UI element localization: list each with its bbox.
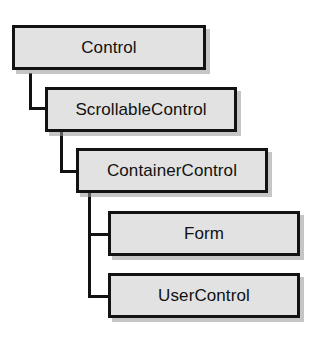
class-node-scrollablecontrol[interactable]: ScrollableControl [45,87,237,132]
class-node-label: Control [81,39,137,56]
class-node-containercontrol[interactable]: ContainerControl [76,148,268,193]
class-node-label: ContainerControl [107,162,237,179]
class-node-usercontrol[interactable]: UserControl [108,273,300,318]
class-node-label: UserControl [158,287,250,304]
class-node-label: Form [184,225,224,242]
class-node-label: ScrollableControl [75,101,206,118]
class-node-form[interactable]: Form [108,211,300,256]
connector-control-to-scrollablecontrol-vertical [29,73,32,110]
class-hierarchy-diagram: Control ScrollableControl ContainerContr… [0,0,322,340]
class-node-control[interactable]: Control [12,25,206,70]
connector-containercontrol-vertical-trunk [88,193,91,298]
connector-scrollablecontrol-to-containercontrol-vertical [60,132,63,173]
